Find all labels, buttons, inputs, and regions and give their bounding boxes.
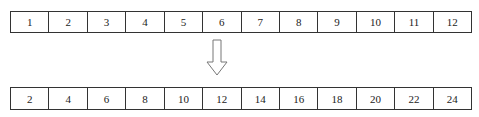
array-cell: 6 (203, 12, 241, 32)
array-cell: 2 (49, 12, 87, 32)
array-cell: 14 (242, 88, 280, 109)
array-cell: 7 (242, 12, 280, 32)
array-cell: 1 (11, 12, 49, 32)
array-cell: 9 (318, 12, 356, 32)
array-cell: 10 (357, 12, 395, 32)
array-cell: 20 (357, 88, 395, 109)
down-arrow-icon (206, 39, 228, 77)
array-cell: 10 (165, 88, 203, 109)
array-cell: 24 (434, 88, 471, 109)
array-cell: 22 (395, 88, 433, 109)
array-cell: 12 (203, 88, 241, 109)
output-array: 2 4 6 8 10 12 14 16 18 20 22 24 (10, 87, 472, 110)
array-cell: 3 (88, 12, 126, 32)
array-cell: 5 (165, 12, 203, 32)
array-cell: 12 (434, 12, 471, 32)
array-cell: 18 (318, 88, 356, 109)
array-cell: 8 (280, 12, 318, 32)
array-cell: 11 (395, 12, 433, 32)
array-cell: 8 (126, 88, 164, 109)
array-cell: 16 (280, 88, 318, 109)
array-cell: 2 (11, 88, 49, 109)
array-cell: 6 (88, 88, 126, 109)
array-cell: 4 (49, 88, 87, 109)
input-array: 1 2 3 4 5 6 7 8 9 10 11 12 (10, 11, 472, 33)
array-cell: 4 (126, 12, 164, 32)
